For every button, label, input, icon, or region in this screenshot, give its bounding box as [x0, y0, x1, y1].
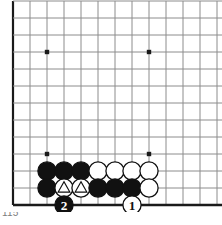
go-diagram-screenshot: 21 115 — [0, 0, 222, 225]
white-stone[interactable] — [140, 162, 158, 180]
figure-caption: 115 — [2, 212, 220, 225]
stone-black[interactable] — [123, 179, 141, 197]
move-number-label: 1 — [129, 198, 136, 213]
stone-black[interactable]: 2 — [55, 196, 73, 212]
star-point — [147, 50, 151, 54]
stone-white[interactable] — [140, 179, 158, 197]
move-number-label: 2 — [61, 198, 68, 213]
stone-black[interactable] — [72, 162, 90, 180]
stone-white[interactable]: 1 — [123, 196, 141, 212]
stone-white[interactable] — [72, 179, 90, 197]
stone-white[interactable] — [123, 162, 141, 180]
black-stone[interactable] — [38, 162, 56, 180]
go-board[interactable]: 21 — [0, 0, 222, 212]
stone-white[interactable] — [89, 162, 107, 180]
black-stone[interactable] — [72, 162, 90, 180]
black-stone[interactable] — [38, 179, 56, 197]
stone-black[interactable] — [89, 179, 107, 197]
star-point — [45, 152, 49, 156]
stone-white[interactable] — [55, 179, 73, 197]
star-point — [45, 50, 49, 54]
stone-white[interactable] — [140, 162, 158, 180]
stone-black[interactable] — [106, 179, 124, 197]
go-board-canvas[interactable]: 21 — [0, 0, 222, 212]
black-stone[interactable] — [106, 179, 124, 197]
star-point — [147, 152, 151, 156]
stone-white[interactable] — [106, 162, 124, 180]
stone-black[interactable] — [38, 179, 56, 197]
stone-black[interactable] — [38, 162, 56, 180]
white-stone[interactable] — [123, 162, 141, 180]
stone-black[interactable] — [55, 162, 73, 180]
white-stone[interactable] — [140, 179, 158, 197]
black-stone[interactable] — [89, 179, 107, 197]
figure-caption-text: 115 — [2, 212, 220, 217]
white-stone[interactable] — [106, 162, 124, 180]
black-stone[interactable] — [123, 179, 141, 197]
black-stone[interactable] — [55, 162, 73, 180]
white-stone[interactable] — [89, 162, 107, 180]
